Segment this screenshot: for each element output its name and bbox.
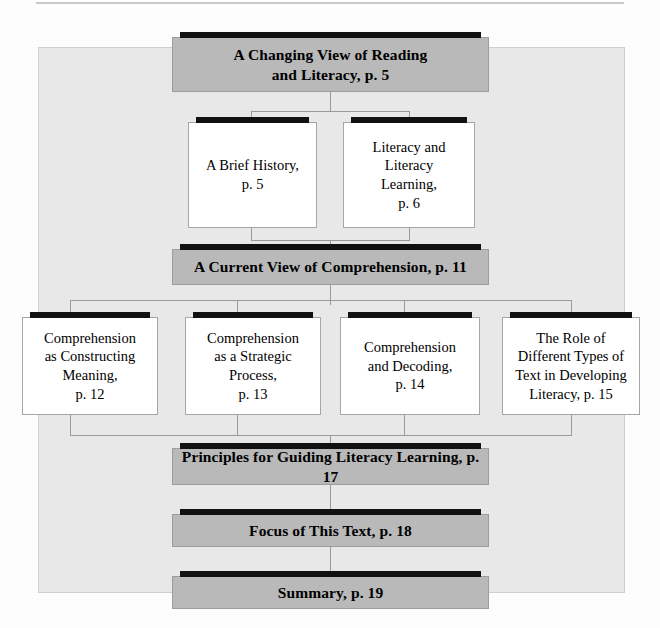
node-label: Focus of This Text, p. 18 <box>243 521 418 541</box>
node-label: Comprehension and Decoding, p. 14 <box>358 338 462 394</box>
node-label: Comprehension as Constructing Meaning, p… <box>38 329 142 403</box>
node-shadow-bar <box>180 244 481 250</box>
node-current-view-comprehension[interactable]: A Current View of Comprehension, p. 11 <box>172 249 489 285</box>
node-label: Literacy and Literacy Learning, p. 6 <box>367 138 452 212</box>
node-comprehension-and-decoding[interactable]: Comprehension and Decoding, p. 14 <box>340 317 480 415</box>
connector-line <box>409 228 410 240</box>
node-literacy-and-literacy-learning[interactable]: Literacy and Literacy Learning, p. 6 <box>343 122 475 228</box>
node-role-of-different-text-types[interactable]: The Role of Different Types of Text in D… <box>502 317 640 415</box>
connector-line <box>70 435 572 436</box>
node-label: The Role of Different Types of Text in D… <box>509 329 633 403</box>
node-label: Summary, p. 19 <box>272 583 390 603</box>
node-focus-of-this-text[interactable]: Focus of This Text, p. 18 <box>172 514 489 547</box>
node-label: A Brief History, p. 5 <box>200 156 305 193</box>
node-shadow-bar <box>180 571 481 577</box>
node-label: A Changing View of Reading and Literacy,… <box>228 45 434 85</box>
node-shadow-bar <box>180 509 481 515</box>
node-shadow-bar <box>30 312 150 318</box>
node-shadow-bar <box>193 312 313 318</box>
node-label: Comprehension as a Strategic Process, p.… <box>201 329 305 403</box>
node-shadow-bar <box>510 312 632 318</box>
connector-line <box>330 285 331 305</box>
node-changing-view[interactable]: A Changing View of Reading and Literacy,… <box>172 37 489 92</box>
node-shadow-bar <box>348 312 472 318</box>
node-summary[interactable]: Summary, p. 19 <box>172 576 489 609</box>
connector-line <box>251 111 410 112</box>
node-brief-history[interactable]: A Brief History, p. 5 <box>188 122 317 228</box>
node-principles-guiding-literacy-learning[interactable]: Principles for Guiding Literacy Learning… <box>172 448 489 485</box>
node-shadow-bar <box>180 32 481 38</box>
connector-line <box>404 415 405 435</box>
page-top-rule <box>36 2 624 4</box>
node-shadow-bar <box>196 117 309 123</box>
connector-line <box>251 228 252 240</box>
connector-line <box>70 415 71 435</box>
node-label: Principles for Guiding Literacy Learning… <box>173 447 488 487</box>
node-comprehension-strategic-process[interactable]: Comprehension as a Strategic Process, p.… <box>185 317 321 415</box>
connector-line <box>70 300 572 301</box>
connector-line <box>571 415 572 435</box>
connector-line <box>237 415 238 435</box>
node-label: A Current View of Comprehension, p. 11 <box>188 257 473 277</box>
node-shadow-bar <box>351 117 467 123</box>
node-comprehension-constructing-meaning[interactable]: Comprehension as Constructing Meaning, p… <box>22 317 158 415</box>
connector-line <box>330 92 331 111</box>
